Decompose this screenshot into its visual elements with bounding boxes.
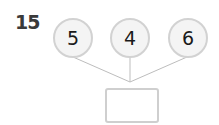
number-circle-2: 4: [110, 18, 150, 58]
number-circle-3: 6: [168, 18, 208, 58]
number-value: 6: [182, 27, 194, 49]
number-value: 4: [124, 27, 136, 49]
number-value: 5: [67, 27, 79, 49]
answer-box[interactable]: [105, 88, 159, 123]
number-circle-1: 5: [53, 18, 93, 58]
